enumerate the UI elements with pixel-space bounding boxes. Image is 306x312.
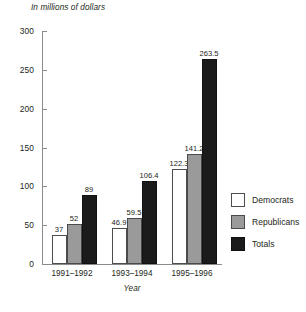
x-axis-line — [42, 264, 222, 265]
y-tick-label: 300 — [0, 26, 34, 36]
y-tick-label: 100 — [0, 181, 34, 191]
bar-democrats-1993–1994 — [112, 228, 127, 264]
bar-chart: In millions of dollars 05010015020025030… — [0, 0, 306, 312]
y-tick — [42, 31, 47, 32]
y-tick-label: 250 — [0, 65, 34, 75]
bar-totals-1995–1996 — [202, 59, 217, 264]
legend-item-republicans[interactable]: Republicans — [231, 211, 299, 233]
bar-republicans-1995–1996 — [187, 154, 202, 264]
bar-republicans-1991–1992 — [67, 224, 82, 264]
y-axis-note: In millions of dollars — [31, 3, 105, 12]
bar-value-label: 263.5 — [193, 49, 226, 58]
bar-value-label: 89 — [73, 185, 106, 194]
x-category-label: 1995–1996 — [157, 269, 227, 278]
bar-democrats-1995–1996 — [172, 169, 187, 264]
legend-item-democrats[interactable]: Democrats — [231, 189, 299, 211]
bar-totals-1993–1994 — [142, 181, 157, 264]
y-tick — [42, 186, 47, 187]
y-tick-label: 0 — [0, 259, 34, 269]
legend-item-totals[interactable]: Totals — [231, 233, 299, 255]
legend: Democrats Republicans Totals — [231, 189, 299, 255]
y-tick — [42, 70, 47, 71]
legend-swatch-democrats — [231, 193, 245, 207]
y-tick-label: 50 — [0, 220, 34, 230]
y-tick — [42, 148, 47, 149]
bar-democrats-1991–1992 — [52, 235, 67, 264]
y-tick-label: 150 — [0, 143, 34, 153]
legend-label-democrats: Democrats — [252, 195, 294, 205]
y-tick — [42, 109, 47, 110]
bar-republicans-1993–1994 — [127, 218, 142, 264]
y-tick — [42, 264, 47, 265]
bar-totals-1991–1992 — [82, 195, 97, 264]
legend-label-republicans: Republicans — [252, 217, 299, 227]
x-axis-title: Year — [42, 284, 222, 293]
legend-swatch-republicans — [231, 215, 245, 229]
legend-label-totals: Totals — [252, 239, 274, 249]
y-tick-label: 200 — [0, 104, 34, 114]
legend-swatch-totals — [231, 237, 245, 251]
bar-value-label: 106.4 — [133, 171, 166, 180]
